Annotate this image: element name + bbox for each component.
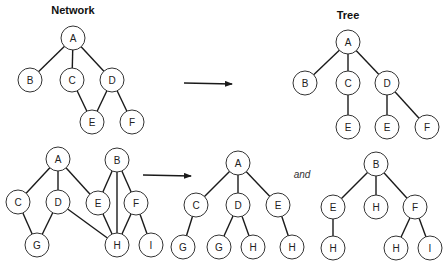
- node-label: E: [89, 117, 96, 128]
- node-label: F: [424, 122, 430, 133]
- node-E: E: [321, 195, 345, 219]
- node-label: E: [95, 198, 102, 209]
- node-H1: H: [241, 235, 265, 259]
- node-label: G: [33, 240, 41, 251]
- node-B: B: [18, 68, 42, 92]
- node-C: C: [184, 193, 208, 217]
- node-A: A: [226, 151, 250, 175]
- network-bottom: ABCDEFGHI: [6, 147, 163, 257]
- node-label: G: [179, 242, 187, 253]
- graphs-layer: ABCDEFABCDEEFABCDEFGHIACDEGGHHBEHFHHI: [6, 26, 442, 260]
- node-B: B: [293, 71, 317, 95]
- node-C: C: [60, 68, 84, 92]
- node-label: F: [129, 117, 135, 128]
- node-G1: G: [171, 235, 195, 259]
- node-label: D: [54, 197, 61, 208]
- node-label: H: [113, 240, 120, 251]
- node-B: B: [364, 152, 388, 176]
- node-label: E: [384, 122, 391, 133]
- node-D: D: [226, 193, 250, 217]
- node-C: C: [6, 190, 30, 214]
- node-label: C: [192, 200, 199, 211]
- node-F: F: [415, 115, 439, 139]
- node-E: E: [86, 191, 110, 215]
- node-D: D: [46, 190, 70, 214]
- node-B: B: [105, 148, 129, 172]
- tree-top: ABCDEEF: [293, 30, 439, 139]
- node-label: H: [288, 242, 295, 253]
- node-C: C: [336, 71, 360, 95]
- node-label: A: [345, 37, 352, 48]
- node-label: H: [329, 243, 336, 254]
- node-F: F: [120, 110, 144, 134]
- node-E1: E: [336, 115, 360, 139]
- node-label: B: [27, 75, 34, 86]
- node-label: B: [302, 78, 309, 89]
- node-label: A: [235, 158, 242, 169]
- node-label: E: [275, 200, 282, 211]
- node-I: I: [418, 236, 442, 260]
- and-label: and: [294, 169, 311, 180]
- node-label: B: [114, 155, 121, 166]
- node-label: F: [412, 202, 418, 213]
- node-label: H: [249, 242, 256, 253]
- node-label: D: [234, 200, 241, 211]
- node-A: A: [336, 30, 360, 54]
- tree-bottom-a: ACDEGGHH: [171, 151, 304, 259]
- network-to-tree-arrow-bottom: [143, 175, 191, 176]
- node-label: D: [383, 78, 390, 89]
- node-G2: G: [207, 235, 231, 259]
- node-label: E: [330, 202, 337, 213]
- network-title: Network: [51, 4, 95, 16]
- node-label: E: [345, 122, 352, 133]
- node-label: A: [70, 33, 77, 44]
- node-F: F: [403, 195, 427, 219]
- node-H2: H: [321, 236, 345, 260]
- tree-title: Tree: [337, 9, 360, 21]
- node-label: H: [372, 202, 379, 213]
- node-label: B: [373, 159, 380, 170]
- node-H: H: [105, 233, 129, 257]
- node-A: A: [46, 147, 70, 171]
- node-H2: H: [280, 235, 304, 259]
- node-D: D: [375, 71, 399, 95]
- node-G: G: [25, 233, 49, 257]
- node-H3: H: [384, 236, 408, 260]
- node-E: E: [80, 110, 104, 134]
- node-label: C: [68, 75, 75, 86]
- node-label: C: [344, 78, 351, 89]
- node-label: A: [55, 154, 62, 165]
- network-to-tree-diagram: Network Tree and ABCDEFABCDEEFABCDEFGHIA…: [0, 0, 446, 265]
- node-F: F: [124, 191, 148, 215]
- network-to-tree-arrow-top: [184, 83, 232, 84]
- node-label: F: [133, 198, 139, 209]
- node-label: H: [392, 243, 399, 254]
- node-label: I: [429, 243, 432, 254]
- node-D: D: [100, 68, 124, 92]
- node-label: I: [150, 240, 153, 251]
- node-I: I: [139, 233, 163, 257]
- node-H1: H: [364, 195, 388, 219]
- node-label: D: [108, 75, 115, 86]
- node-label: G: [215, 242, 223, 253]
- tree-bottom-b: BEHFHHI: [321, 152, 442, 260]
- node-E2: E: [375, 115, 399, 139]
- node-label: C: [14, 197, 21, 208]
- node-E: E: [266, 193, 290, 217]
- node-A: A: [61, 26, 85, 50]
- network-top: ABCDEF: [18, 26, 144, 134]
